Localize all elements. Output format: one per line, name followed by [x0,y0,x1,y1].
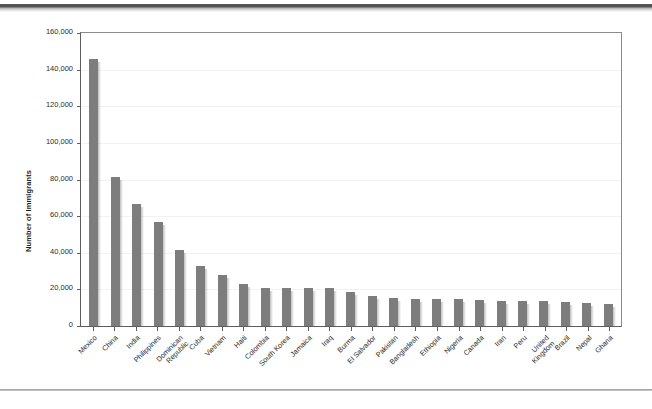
x-tick-label: China [101,334,120,353]
x-tick-mark [136,327,137,331]
x-tick-mark [157,327,158,331]
bar-slot [469,33,490,326]
x-tick-label: Peru [512,334,529,351]
bar[interactable] [604,304,613,326]
bar[interactable] [368,296,377,326]
x-tick-label-line: Iran [492,333,507,348]
x-tick-slot: UnitedKingdom [534,327,556,387]
bar-slot [340,33,361,326]
bottom-rule-divider [0,389,652,391]
x-tick-label: Mexico [77,334,99,356]
bar-slot [533,33,554,326]
bar[interactable] [261,288,270,326]
bar[interactable] [282,288,291,326]
x-tick-mark [394,327,395,331]
bar-slot [512,33,533,326]
bar-slot [233,33,254,326]
x-tick-mark [114,327,115,331]
x-tick-slot: Ghana [598,327,620,387]
x-tick-mark [415,327,416,331]
bar-slot [169,33,190,326]
x-tick-label-line: Mexico [76,333,98,355]
bar[interactable] [218,275,227,326]
x-tick-mark [545,327,546,331]
y-tick-label: 140,000 [46,64,73,73]
x-tick-label-line: Haiti [232,333,249,350]
x-tick-mark [480,327,481,331]
x-tick-slot: Iraq [319,327,341,387]
x-tick-slot: China [104,327,126,387]
bar[interactable] [389,298,398,326]
bar[interactable] [475,300,484,326]
y-tick-label: 100,000 [46,137,73,146]
x-tick-mark [566,327,567,331]
bar-slot [126,33,147,326]
x-tick-mark [179,327,180,331]
bar[interactable] [111,177,120,326]
y-tick-label: 20,000 [50,283,73,292]
x-tick-mark [351,327,352,331]
bar[interactable] [497,301,506,326]
bar-slot [212,33,233,326]
x-tick-slot: Vietnam [211,327,233,387]
x-tick-mark [437,327,438,331]
bar-slot [576,33,597,326]
x-tick-mark [523,327,524,331]
x-tick-slot: Jamaica [297,327,319,387]
y-tick-label: 80,000 [50,174,73,183]
bar[interactable] [154,222,163,326]
x-tick-slot: DominicanRepublic [168,327,190,387]
bar[interactable] [432,299,441,326]
x-tick-mark [459,327,460,331]
bar-slot [83,33,104,326]
x-axis-labels: MexicoChinaIndiaPhilippinesDominicanRepu… [80,327,622,387]
x-tick-label-line: Nepal [574,333,594,353]
bar-slot [426,33,447,326]
x-tick-label-line: Peru [512,333,529,350]
y-tick-label: 60,000 [50,210,73,219]
bar[interactable] [561,302,570,326]
bar-slot [255,33,276,326]
x-tick-mark [372,327,373,331]
x-tick-mark [286,327,287,331]
bar[interactable] [411,299,420,326]
bar-slot [405,33,426,326]
bar[interactable] [539,301,548,326]
bar[interactable] [518,301,527,326]
bar[interactable] [175,250,184,326]
x-tick-mark [308,327,309,331]
bar-slot [383,33,404,326]
bar-slot [362,33,383,326]
bar-slot [297,33,318,326]
x-tick-slot: Nigeria [448,327,470,387]
bar-chart: Number of Immigrants 160,000140,000120,0… [0,12,652,387]
bar[interactable] [132,204,141,326]
bar[interactable] [325,288,334,326]
bar-slot [190,33,211,326]
bar[interactable] [239,284,248,326]
bar-slot [490,33,511,326]
x-tick-mark [243,327,244,331]
x-tick-slot: Nepal [577,327,599,387]
bar-slot [276,33,297,326]
x-tick-mark [200,327,201,331]
x-tick-label-line: Cuba [187,333,206,352]
bar-slot [447,33,468,326]
bar[interactable] [582,303,591,326]
bar[interactable] [346,292,355,326]
bar[interactable] [196,266,205,326]
chart-page: Number of Immigrants 160,000140,000120,0… [0,0,652,409]
bar[interactable] [89,59,98,326]
y-tick-label: 40,000 [50,247,73,256]
bar-slot [147,33,168,326]
x-tick-label: Iran [493,334,508,349]
bar-slot [104,33,125,326]
x-tick-mark [588,327,589,331]
x-tick-mark [265,327,266,331]
x-tick-label-line: Iraq [320,333,335,348]
bar[interactable] [454,299,463,326]
x-tick-slot: Ethiopia [426,327,448,387]
x-tick-mark [222,327,223,331]
y-tick-label: 160,000 [46,27,73,36]
bar[interactable] [304,288,313,326]
